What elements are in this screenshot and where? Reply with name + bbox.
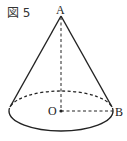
- base-front-arc: [9, 111, 113, 131]
- point-label-b: B: [115, 105, 123, 119]
- point-label-o: O: [48, 104, 57, 118]
- center-dot: [59, 109, 62, 112]
- point-label-a: A: [56, 3, 65, 17]
- cone-diagram: A O B: [0, 0, 127, 141]
